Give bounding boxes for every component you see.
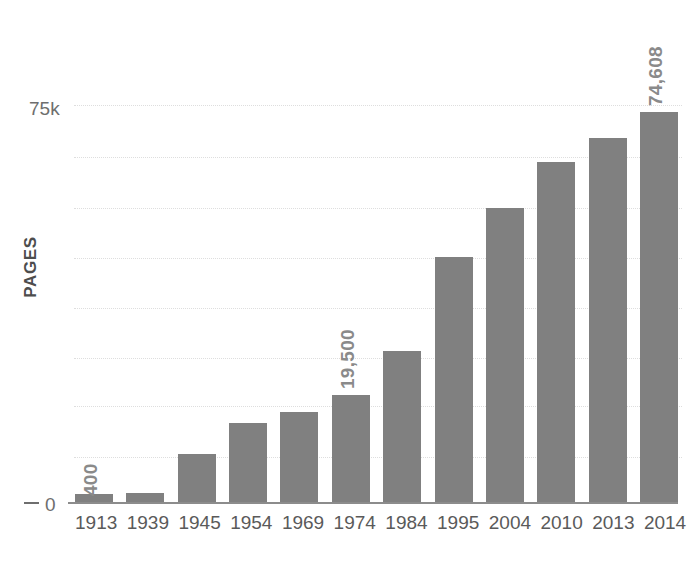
bar-slot-1939 <box>126 20 164 502</box>
x-label-2013: 2013 <box>592 512 630 534</box>
bar-1939[interactable] <box>126 493 164 502</box>
x-axis-line <box>68 502 678 504</box>
bar-slot-1913: 400 <box>75 20 113 502</box>
bar-slot-1974: 19,500 <box>332 20 370 502</box>
y-axis-tick-mark <box>24 502 39 504</box>
bar-slot-1969 <box>280 20 318 502</box>
bar-1984[interactable] <box>383 351 421 502</box>
bar-2004[interactable] <box>486 208 524 502</box>
bar-slot-1995 <box>435 20 473 502</box>
x-label-1954: 1954 <box>230 512 268 534</box>
bar-slot-1945 <box>178 20 216 502</box>
x-label-1939: 1939 <box>127 512 165 534</box>
bar-slot-2014: 74,608 <box>640 20 678 502</box>
x-label-2014: 2014 <box>644 512 682 534</box>
y-axis-title: PAGES <box>19 212 43 322</box>
x-label-1984: 1984 <box>385 512 423 534</box>
bar-value-label-2014: 74,608 <box>645 46 667 106</box>
y-tick-label-0: 0 <box>45 495 56 514</box>
bar-chart: PAGES 75k 0 400 <box>0 0 696 563</box>
bar-1969[interactable] <box>280 412 318 502</box>
bar-value-label-1974: 19,500 <box>337 329 359 389</box>
x-label-2010: 2010 <box>540 512 578 534</box>
bar-1974[interactable] <box>332 395 370 502</box>
bar-2014[interactable] <box>640 112 678 502</box>
x-label-1945: 1945 <box>178 512 216 534</box>
x-label-2004: 2004 <box>489 512 527 534</box>
bar-slot-1984 <box>383 20 421 502</box>
y-tick-label-75k: 75k <box>29 99 60 118</box>
x-axis-labels: 1913 1939 1945 1954 1969 1974 1984 1995 … <box>75 512 682 534</box>
bar-series: 400 19,500 <box>75 20 678 502</box>
bar-1995[interactable] <box>435 257 473 502</box>
bar-2013[interactable] <box>589 138 627 502</box>
bar-slot-1954 <box>229 20 267 502</box>
bar-slot-2010 <box>537 20 575 502</box>
bar-slot-2013 <box>589 20 627 502</box>
x-label-1969: 1969 <box>282 512 320 534</box>
bar-value-label-1913: 400 <box>80 463 102 496</box>
bar-slot-2004 <box>486 20 524 502</box>
x-label-1913: 1913 <box>75 512 113 534</box>
plot-area: 400 19,500 <box>68 20 682 504</box>
x-label-1974: 1974 <box>334 512 372 534</box>
bar-1945[interactable] <box>178 454 216 502</box>
bar-2010[interactable] <box>537 162 575 502</box>
x-label-1995: 1995 <box>437 512 475 534</box>
bar-1954[interactable] <box>229 423 267 502</box>
